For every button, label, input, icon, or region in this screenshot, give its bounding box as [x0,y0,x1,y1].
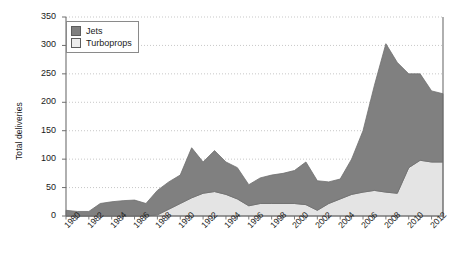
y-axis-title: Total deliveries [14,102,24,160]
y-tick-label: 100 [26,153,56,163]
y-tick-label: 350 [26,11,56,21]
area-jets [66,44,443,216]
y-tick-label: 50 [26,182,56,192]
area-series-group [66,44,443,216]
legend-swatch-jets [71,26,81,36]
legend-label-jets: Jets [86,27,103,36]
legend-item-turboprops: Turboprops [71,37,132,49]
y-tick-label: 150 [26,125,56,135]
chart-container: 050100150200250300350 198019821984198619… [0,0,460,274]
y-tick-label: 200 [26,96,56,106]
y-tick-label: 300 [26,39,56,49]
y-tick-label: 250 [26,68,56,78]
legend-label-turboprops: Turboprops [86,39,132,48]
y-tick-label: 0 [26,210,56,220]
legend-swatch-turboprops [71,38,81,48]
legend-item-jets: Jets [71,25,132,37]
chart-legend: Jets Turboprops [66,21,139,53]
